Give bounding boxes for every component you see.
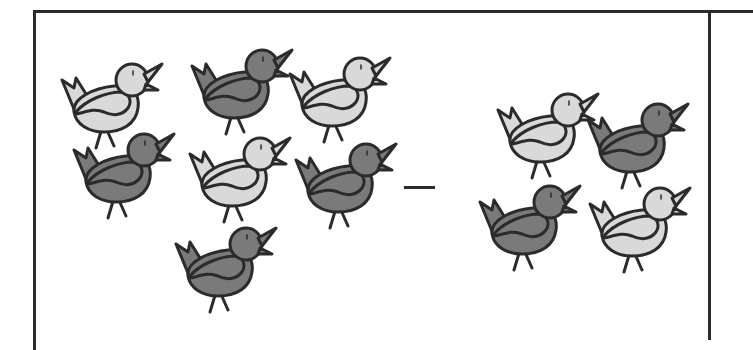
left-bird-4-dark-icon bbox=[70, 128, 180, 224]
right-bird-2-dark-icon bbox=[584, 98, 694, 194]
left-bird-3-light-icon bbox=[286, 52, 396, 148]
left-bird-6-dark-icon bbox=[292, 138, 402, 234]
left-bird-5-light-icon bbox=[186, 132, 296, 228]
right-bird-4-light-icon bbox=[586, 182, 696, 278]
minus-sign bbox=[404, 186, 435, 189]
panel-divider bbox=[708, 10, 711, 340]
left-bird-7-dark-icon bbox=[172, 222, 282, 318]
left-bird-2-dark-icon bbox=[188, 44, 298, 140]
right-bird-3-dark-icon bbox=[476, 180, 586, 276]
